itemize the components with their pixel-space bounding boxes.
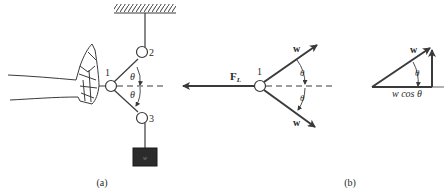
triangle-hypotenuse-arrow — [372, 48, 430, 87]
pulley-1-label: 1 — [105, 67, 110, 78]
panel-b-free-body: FL 1 w w θ θ — [183, 43, 336, 128]
panel-a: w 1 2 3 θ θ (a) — [8, 4, 176, 189]
w-upper-arrow — [264, 45, 317, 82]
force-FL-label: FL — [230, 70, 241, 84]
ceiling-support — [114, 4, 176, 13]
angle-lower-b-label: θ — [300, 93, 305, 103]
angle-upper-b-label: θ — [300, 68, 305, 78]
triangle-angle-label: θ — [415, 68, 420, 78]
pulley-2-label: 2 — [149, 47, 154, 58]
pulley-3 — [137, 113, 148, 124]
pulley-3-label: 3 — [149, 113, 154, 124]
panel-b-triangle: w θ w cos θ (b) — [344, 44, 444, 189]
pulley-2 — [137, 47, 148, 58]
weight-label: w — [143, 155, 147, 161]
node-1 — [255, 81, 266, 92]
node-1-label: 1 — [257, 66, 262, 77]
triangle-base-label: w cos θ — [392, 88, 422, 99]
triangle-w-label: w — [410, 44, 418, 55]
w-upper-label: w — [293, 43, 301, 54]
w-lower-label: w — [293, 117, 301, 128]
traction-diagram: w 1 2 3 θ θ (a) FL 1 w w θ θ w — [0, 0, 448, 194]
angle-upper-label: θ — [130, 71, 135, 82]
caption-a: (a) — [96, 177, 107, 189]
caption-b: (b) — [344, 177, 356, 189]
angle-lower-label: θ — [130, 89, 135, 100]
leg-in-cast — [8, 44, 106, 104]
pulley-1 — [106, 81, 117, 92]
w-lower-arrow — [264, 90, 315, 127]
